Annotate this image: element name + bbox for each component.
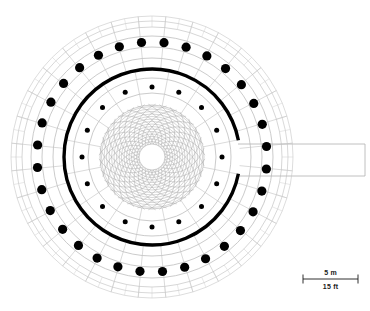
peristyle-column xyxy=(94,51,103,60)
peristyle-column xyxy=(202,51,211,60)
dome-support-column xyxy=(220,155,225,160)
peristyle-column xyxy=(113,262,122,271)
peristyle-column xyxy=(257,187,266,196)
peristyle-column xyxy=(46,206,55,215)
dome-support-column xyxy=(123,219,128,224)
dome-support-column xyxy=(176,90,181,95)
peristyle-column xyxy=(249,99,258,108)
peristyle-column xyxy=(33,163,42,172)
peristyle-column xyxy=(236,226,245,235)
peristyle-column xyxy=(37,185,46,194)
peristyle-column xyxy=(75,63,84,72)
dome-support-column xyxy=(150,85,155,90)
peristyle-column xyxy=(38,118,47,127)
peristyle-column xyxy=(221,64,230,73)
peristyle-column xyxy=(46,98,55,107)
dome-support-column xyxy=(80,155,85,160)
peristyle-column xyxy=(135,267,144,276)
peristyle-column xyxy=(182,43,191,52)
peristyle-column xyxy=(262,142,271,151)
peristyle-column xyxy=(201,254,210,263)
floor-plan-figure: 5 m 15 ft xyxy=(0,0,370,311)
peristyle-column xyxy=(137,38,146,47)
peristyle-column xyxy=(220,242,229,251)
peristyle-column xyxy=(93,253,102,262)
peristyle-column xyxy=(115,42,124,51)
scale-bar-metric-label: 5 m xyxy=(324,269,337,276)
peristyle-column xyxy=(180,263,189,272)
dome-support-column xyxy=(214,128,219,133)
peristyle-column xyxy=(159,38,168,47)
dome-support-column xyxy=(100,204,105,209)
peristyle-column xyxy=(258,120,267,129)
peristyle-column xyxy=(33,140,42,149)
dome-support-column xyxy=(85,128,90,133)
dome-support-column xyxy=(199,105,204,110)
peristyle-column xyxy=(237,80,246,89)
dome-support-column xyxy=(176,219,181,224)
dome-support-column xyxy=(100,105,105,110)
dome-support-column xyxy=(85,181,90,186)
peristyle-column xyxy=(262,164,271,173)
peristyle-column xyxy=(158,267,167,276)
oculus xyxy=(139,144,165,170)
dome-support-column xyxy=(123,90,128,95)
peristyle-column xyxy=(59,79,68,88)
dome-support-column xyxy=(214,181,219,186)
peristyle-column xyxy=(58,225,67,234)
dome-support-column xyxy=(199,204,204,209)
peristyle-column xyxy=(74,241,83,250)
scale-bar-imperial-label: 15 ft xyxy=(323,283,339,290)
peristyle-column xyxy=(248,207,257,216)
dome-support-column xyxy=(150,225,155,230)
plan-canvas: 5 m 15 ft xyxy=(0,0,370,311)
